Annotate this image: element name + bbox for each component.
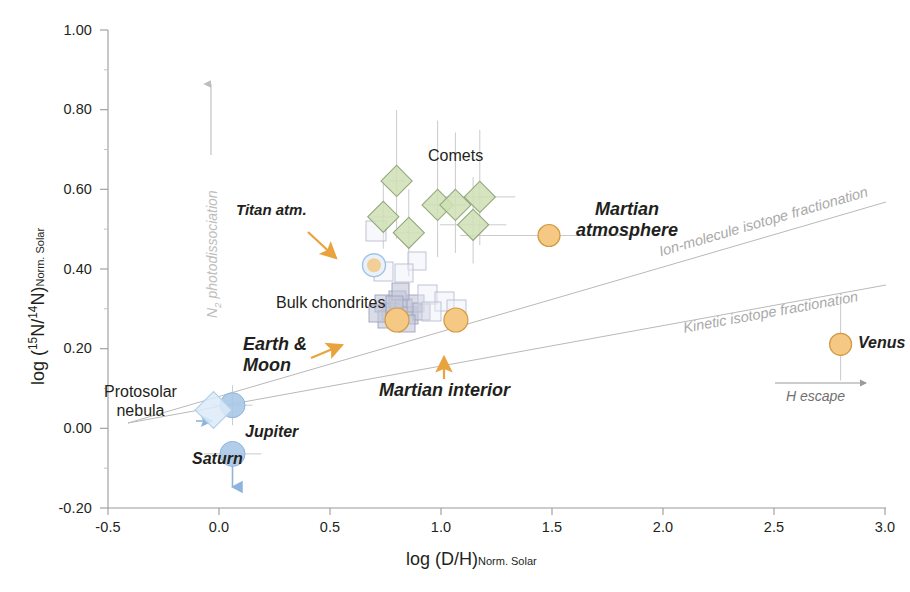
martian-atmosphere-marker [538,225,560,247]
y-tick-0-80: 0.80 [32,101,92,117]
earth-moon-pointer-arrow [311,345,342,358]
x-axis-title-main: log (D/H) [406,549,478,569]
martian-interior-label: Martian interior [379,380,510,401]
titan-atm-label: Titan atm. [236,201,307,218]
y-tick-neg-0-20: -0.20 [32,500,92,516]
comet-markers [368,165,496,248]
x-tick-3-0: 3.0 [855,519,910,535]
x-tick-0-5: 0.5 [300,519,360,535]
bulk-chondrites-label: Bulk chondrites [276,294,385,312]
y-axis-title: log (15N/14N)Norm. Solar [26,228,49,385]
n2-photodissociation-label-sub: 2 [212,302,223,307]
x-tick-2-5: 2.5 [744,519,804,535]
h-escape-label: H escape [786,388,845,404]
n2-photodissociation-label: N2 photodissociation [204,190,223,318]
protosolar-nebula-label: Protosolar nebula [104,382,177,420]
x-axis-title: log (D/H)Norm. Solar [406,549,537,570]
y-axis-title-sub: Norm. Solar [34,228,46,287]
titan-marker [363,254,386,277]
earth-moon-marker [385,308,409,332]
venus-marker [830,333,852,355]
martian-atmosphere-label-line2: atmosphere [576,220,678,241]
saturn-label: Saturn [192,450,243,468]
x-tick-0-0: 0.0 [189,519,249,535]
axis-lines [108,30,886,508]
earth-moon-label-line1: Earth & [243,334,307,355]
y-axis-title-n1: N/ [28,319,48,337]
titan-pointer-arrow [308,232,336,258]
y-axis-title-iso-14: 14 [26,306,40,319]
martian-atmosphere-label-line1: Martian [576,199,678,220]
jupiter-label: Jupiter [245,423,298,441]
protosolar-nebula-label-line2: nebula [104,401,177,420]
x-tick-2-0: 2.0 [633,519,693,535]
y-axis-title-n2: N) [28,287,48,306]
earth-moon-label-line2: Moon [243,355,307,376]
y-axis-ticks [100,30,108,508]
n2-photodissociation-label-post: photodissociation [204,190,220,302]
x-tick-1-0: 1.0 [411,519,471,535]
y-tick-0-00: 0.00 [32,420,92,436]
y-axis-title-iso-15: 15 [26,337,40,350]
y-axis-title-pre: log ( [28,350,48,385]
x-axis-ticks [108,508,885,515]
x-axis-title-sub: Norm. Solar [478,555,537,567]
x-tick-1-5: 1.5 [522,519,582,535]
protosolar-nebula-label-line1: Protosolar [104,382,177,401]
martian-atmosphere-label: Martian atmosphere [576,199,678,241]
x-tick-neg-0-5: -0.5 [78,519,138,535]
martian-interior-marker [444,308,468,332]
comets-label: Comets [428,147,483,165]
n2-photodissociation-label-pre: N [204,308,220,318]
earth-moon-label: Earth & Moon [243,334,307,376]
y-tick-0-60: 0.60 [32,181,92,197]
venus-label: Venus [858,334,905,352]
y-tick-1-00: 1.00 [32,22,92,38]
